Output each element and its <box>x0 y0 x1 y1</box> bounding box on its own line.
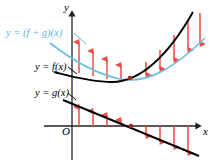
curve-label-g: y = g(x) <box>35 88 69 99</box>
y-axis-label: y <box>64 2 69 13</box>
intersection-dot-upper <box>128 76 133 81</box>
curve-sum <box>50 38 205 80</box>
graph-canvas <box>0 0 216 166</box>
offset-arrows-upper <box>79 13 200 79</box>
math-figure: y = (f + g)(x) y = f(x) y = g(x) y x O <box>0 0 216 166</box>
curve-label-f: y = f(x) <box>35 62 67 73</box>
origin-label: O <box>62 126 70 137</box>
curve-f <box>54 12 193 82</box>
curve-label-sum: y = (f + g)(x) <box>6 28 62 39</box>
x-axis-label: x <box>203 126 208 137</box>
leader-line-sum <box>74 33 86 44</box>
intersection-dot-lower <box>129 124 134 129</box>
